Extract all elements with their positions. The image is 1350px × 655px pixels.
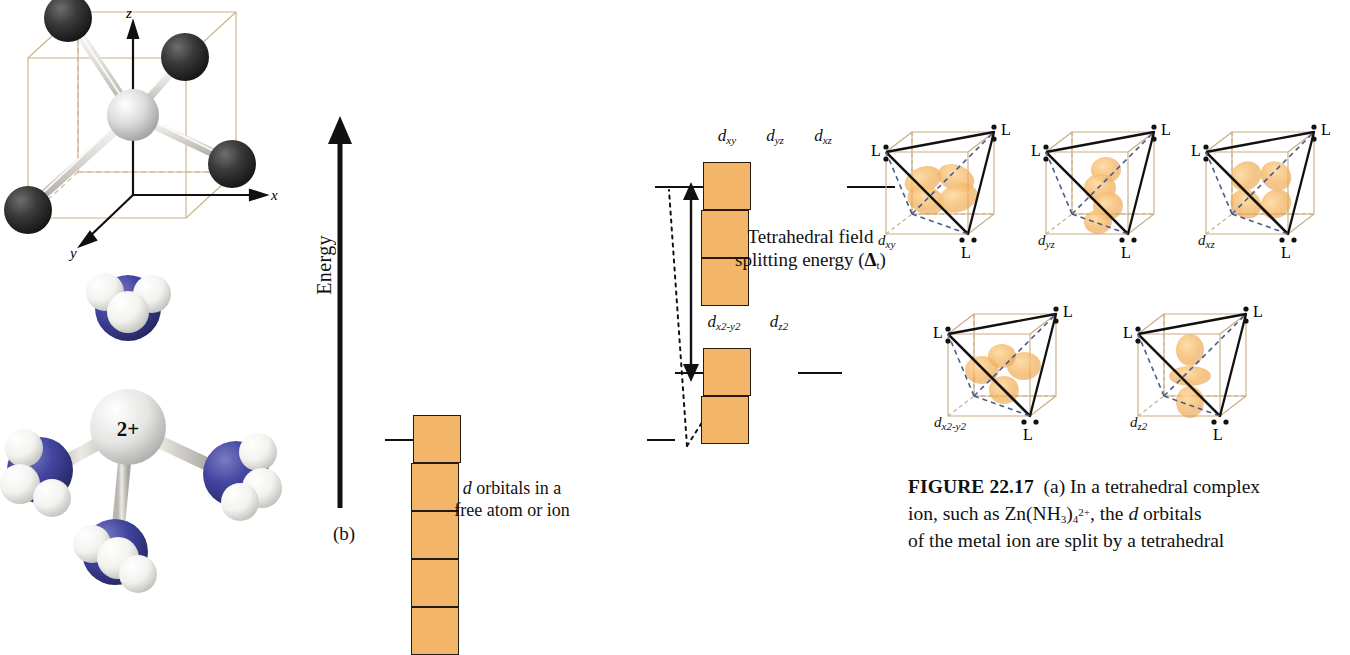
figure-caption: FIGURE 22.17 (a) In a tetrahedral comple…: [908, 474, 1348, 555]
e-level-line-right: [798, 372, 842, 374]
orbital-cube-dyz: L L L dyz: [1028, 118, 1178, 278]
label-dxz: dxz: [799, 126, 847, 146]
t2-orbital-labels: dxydyzdxz: [703, 126, 847, 146]
ligand-label-L2: L: [1001, 121, 1011, 138]
ligand-atom-3: [208, 140, 256, 188]
ligand-atom-4: [4, 186, 52, 234]
label-dxy: dxy: [703, 126, 751, 146]
free-ion-level-caption: d orbitals in a free atom or ion: [397, 478, 627, 522]
free-ion-caption-rest: orbitals in a: [472, 478, 561, 498]
ligand-label-L3: L: [1213, 426, 1223, 443]
label-dyz: dyz: [751, 126, 799, 146]
e-orbital-boxes: [703, 348, 751, 444]
energy-axis-label: Energy: [313, 235, 336, 295]
ligand-label-L3: L: [961, 244, 971, 261]
central-metal-atom: [107, 89, 159, 141]
energy-axis: [323, 110, 357, 510]
orbital-cube-label-dxy: dxy: [878, 232, 895, 250]
free-ion-caption-d: d: [463, 478, 472, 498]
charge-label: 2+: [117, 417, 139, 441]
axis-label-z: z: [125, 5, 132, 21]
orbital-box-dx2y2: [703, 348, 751, 396]
caption-text-a: (a) In a tetrahedral complex: [1044, 476, 1261, 497]
figure-number: FIGURE 22.17: [908, 476, 1034, 497]
energy-axis-arrow: [323, 110, 357, 510]
orbital-cube-dxy: L L L dxy: [868, 118, 1018, 278]
splitting-energy-arrow: [679, 182, 703, 382]
ammine-ligand-top: [86, 273, 171, 341]
panel-label-b: (b): [333, 523, 355, 545]
energy-level-diagram: Energy d orbitals in a free atom or ion …: [315, 100, 860, 570]
free-ion-level-line-left: [385, 439, 413, 441]
orbital-cube-label-dx2y2: dx2-y2: [934, 414, 966, 432]
zinc-ammine-complex-model: 2+: [0, 262, 310, 579]
ligand-label-L3: L: [1281, 244, 1291, 261]
ammine-ligand-left: [0, 429, 73, 517]
orbital-box: [411, 607, 459, 655]
orbital-cube-label-dyz: dyz: [1038, 232, 1055, 250]
ligand-label-L1: L: [933, 324, 943, 341]
ligand-label-L3: L: [1023, 426, 1033, 443]
ligand-label-L1: L: [1123, 324, 1133, 341]
free-ion-caption-line2: free atom or ion: [397, 500, 627, 522]
orbital-box-dz2: [701, 396, 749, 444]
orbital-box: [411, 559, 459, 607]
tetrahedral-geometry-illustration: z x y: [0, 0, 310, 262]
label-dz2: dz2: [755, 312, 803, 332]
orbital-box: [413, 415, 461, 463]
orbital-cube-label-dxz: dxz: [1198, 232, 1215, 250]
ligand-label-L2: L: [1161, 121, 1171, 138]
orbital-lobes-dxy: [901, 159, 982, 220]
axis-label-x: x: [270, 187, 278, 203]
caption-line-2: ion, such as Zn(NH3)42+, the d orbitals: [908, 501, 1348, 528]
ligand-label-L1: L: [871, 142, 881, 159]
ligand-label-L2: L: [1253, 303, 1263, 320]
orbital-cube-dxz: L L L dxz: [1188, 118, 1338, 278]
e-orbital-labels: dx2-y2dz2: [693, 312, 803, 332]
axis-label-y: y: [68, 245, 77, 261]
ligand-label-L1: L: [1191, 142, 1201, 159]
free-ion-orbital-boxes: [413, 415, 461, 655]
ligand-label-L2: L: [1321, 121, 1331, 138]
ligand-label-L2: L: [1063, 303, 1073, 320]
ligand-label-L1: L: [1031, 142, 1041, 159]
orbital-cube-dx2y2: L L L dx2-y2: [930, 300, 1080, 460]
orbital-shape-grid: L L L dxy L L L dyz: [862, 118, 1350, 468]
ligand-atom-2: [161, 33, 209, 81]
caption-line-3: of the metal ion are split by a tetrahed…: [908, 528, 1348, 555]
ammine-ligand-bottom: [73, 519, 157, 593]
tetrahedron-cube-svg: z x y: [0, 0, 310, 262]
caption-line-1: FIGURE 22.17 (a) In a tetrahedral comple…: [908, 474, 1348, 501]
orbital-cube-label-dz2: dz2: [1130, 414, 1147, 432]
ammine-ligand-right: [203, 433, 282, 521]
orbital-box-dxy: [703, 162, 751, 210]
ball-and-stick-svg: 2+: [0, 262, 310, 579]
ligand-label-L3: L: [1121, 244, 1131, 261]
orbital-cube-dz2: L L L dz2: [1120, 300, 1270, 460]
